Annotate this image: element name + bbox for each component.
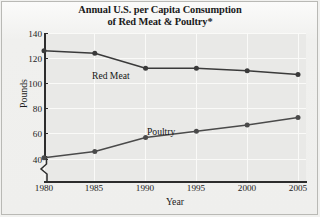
chart-figure: Annual U.S. per Capita Consumption of Re… <box>0 0 320 217</box>
data-point-marker <box>42 48 47 53</box>
data-point-marker <box>296 115 301 120</box>
series-plot-layer <box>0 0 320 217</box>
data-point-marker <box>245 122 250 127</box>
data-point-marker <box>245 68 250 73</box>
data-point-marker <box>194 129 199 134</box>
series-line-poultry <box>44 117 298 157</box>
series-label-poultry: Poultry <box>147 126 175 137</box>
series-line-red-meat <box>44 51 298 75</box>
data-point-marker <box>42 155 47 160</box>
data-point-marker <box>143 66 148 71</box>
data-point-marker <box>92 51 97 56</box>
data-point-marker <box>92 149 97 154</box>
series-label-red-meat: Red Meat <box>92 70 130 81</box>
data-point-marker <box>194 66 199 71</box>
data-point-marker <box>296 72 301 77</box>
